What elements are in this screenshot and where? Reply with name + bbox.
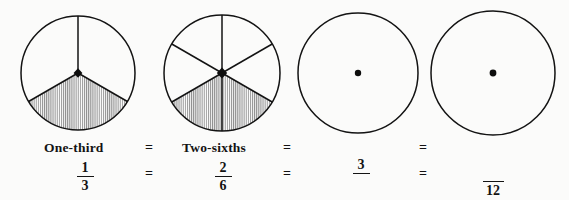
circle-three-over-blank: [298, 13, 418, 133]
shaded-sector-1-of-3: [29, 73, 128, 130]
figure-canvas: One-third = Two-sixths = = 1 3 = 2 6 = 3…: [0, 0, 569, 200]
shaded-sector-2-of-6-left: [172, 73, 222, 131]
circle-one-third: [21, 16, 135, 130]
pie-diagram-svg: [0, 0, 569, 200]
shaded-sector-2-of-6-right: [222, 73, 272, 131]
center-dot-icon-3: [355, 70, 361, 76]
circle-blank-over-twelve: [431, 11, 555, 135]
circle-two-sixths: [164, 15, 280, 131]
center-dot-icon-4: [490, 70, 497, 77]
